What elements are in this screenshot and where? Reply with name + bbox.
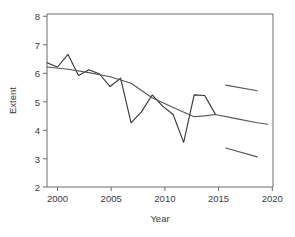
y-tick-label-2: 2 xyxy=(24,182,40,193)
axis-frame xyxy=(47,14,273,187)
series-line-0 xyxy=(47,54,215,142)
y-tick-label-7: 7 xyxy=(24,40,40,51)
y-tick-label-4: 4 xyxy=(24,125,40,136)
x-axis-ticks xyxy=(58,187,273,191)
x-tick-label-2010: 2010 xyxy=(145,193,185,204)
x-tick-label-2000: 2000 xyxy=(38,193,78,204)
y-tick-label-8: 8 xyxy=(24,11,40,22)
y-axis-ticks xyxy=(43,16,47,187)
x-tick-label-2005: 2005 xyxy=(91,193,131,204)
y-tick-label-6: 6 xyxy=(24,68,40,79)
chart-container: 8 7 6 5 4 3 2 2000 2005 2010 2015 2020 E… xyxy=(0,0,295,237)
y-axis-title: Extent xyxy=(7,76,18,126)
x-tick-label-2015: 2015 xyxy=(199,193,239,204)
y-tick-label-3: 3 xyxy=(24,154,40,165)
data-series-layer xyxy=(47,54,268,156)
series-line-3 xyxy=(226,148,258,157)
series-line-1 xyxy=(47,67,268,124)
x-axis-title: Year xyxy=(47,213,273,224)
series-line-2 xyxy=(226,85,258,91)
x-tick-label-2020: 2020 xyxy=(252,193,292,204)
y-tick-label-5: 5 xyxy=(24,97,40,108)
